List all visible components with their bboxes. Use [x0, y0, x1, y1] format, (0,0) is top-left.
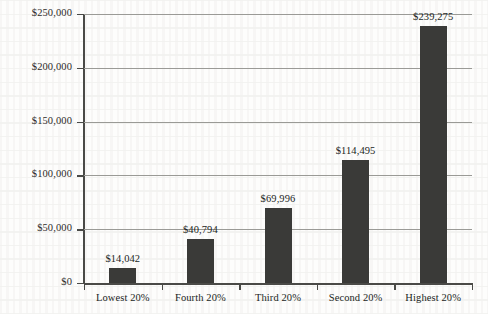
x-axis-category-label: Fourth 20%: [155, 292, 245, 303]
bar-value-label: $114,495: [311, 145, 401, 156]
bar: [342, 160, 369, 283]
gridline: [84, 122, 472, 123]
x-axis-tick: [162, 283, 163, 290]
chart-page: $250,000 $200,000 $150,000 $100,000 $50,…: [0, 0, 488, 314]
y-axis-tick: [77, 122, 84, 123]
bar: [109, 268, 136, 283]
y-axis-label: $250,000: [0, 7, 72, 18]
plot-area: [84, 14, 472, 283]
y-axis-label: $0: [0, 276, 72, 287]
y-axis-label: $50,000: [0, 222, 72, 233]
x-axis-category-label: Highest 20%: [388, 292, 478, 303]
axis-baseline: [84, 283, 472, 285]
x-axis-tick: [394, 283, 395, 290]
bar-value-label: $69,996: [233, 193, 323, 204]
y-axis-label: $100,000: [0, 168, 72, 179]
bar-value-label: $239,275: [388, 11, 478, 22]
x-axis-end-tick: [472, 283, 473, 290]
bar-value-label: $40,794: [155, 224, 245, 235]
y-axis-tick: [77, 14, 84, 15]
bar-value-label: $14,042: [78, 253, 168, 264]
x-axis-end-tick: [84, 283, 85, 290]
x-axis-category-label: Third 20%: [233, 292, 323, 303]
y-axis-label: $200,000: [0, 61, 72, 72]
y-axis-tick: [77, 68, 84, 69]
x-axis-tick: [317, 283, 318, 290]
bar: [187, 239, 214, 283]
gridline: [84, 68, 472, 69]
y-axis-tick: [77, 229, 84, 230]
gridline: [84, 175, 472, 176]
y-axis-label: $150,000: [0, 115, 72, 126]
x-axis-category-label: Lowest 20%: [78, 292, 168, 303]
y-axis-tick: [77, 175, 84, 176]
x-axis-tick: [239, 283, 240, 290]
bar: [420, 26, 447, 283]
y-axis-tick: [77, 283, 84, 284]
x-axis-category-label: Second 20%: [311, 292, 401, 303]
bar: [265, 208, 292, 283]
